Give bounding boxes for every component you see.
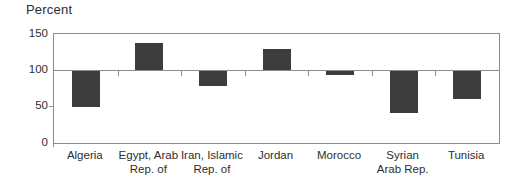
baseline-100 [54, 70, 499, 71]
x-boundary-tick [118, 71, 119, 76]
x-boundary-tick [435, 71, 436, 76]
y-axis-overhang [53, 143, 54, 147]
x-boundary-tick [245, 71, 246, 76]
y-tick-label-0: 0 [18, 136, 48, 148]
bar-0 [72, 71, 100, 106]
y-axis-title: Percent [26, 2, 72, 17]
y-tick-mark-50 [49, 106, 54, 107]
y-tick-label-150: 150 [18, 27, 48, 39]
bar-1 [135, 43, 163, 71]
y-tick-label-100: 100 [18, 63, 48, 75]
bar-2 [199, 71, 227, 85]
bar-5 [390, 71, 418, 113]
bar-chart-figure: Percent 050100150AlgeriaEgypt, Arab Rep.… [0, 0, 523, 187]
plot-area [53, 33, 500, 144]
bar-3 [263, 49, 291, 71]
x-boundary-tick [181, 71, 182, 76]
x-category-label-6: Tunisia [411, 149, 521, 163]
y-tick-label-50: 50 [18, 99, 48, 111]
x-boundary-tick [372, 71, 373, 76]
bar-4 [326, 71, 354, 74]
x-boundary-tick [308, 71, 309, 76]
bar-6 [453, 71, 481, 98]
